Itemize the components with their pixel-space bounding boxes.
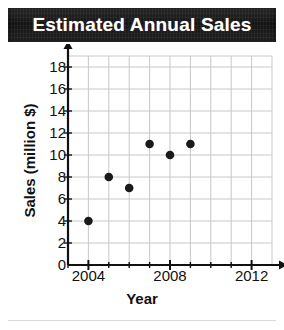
x-axis-title: Year — [0, 290, 284, 307]
x-axis-tick-label: 2008 — [145, 268, 195, 283]
data-points — [84, 140, 195, 226]
data-point — [125, 184, 134, 193]
y-axis-title: Sales (million $) — [21, 66, 38, 256]
y-axis-tick-label: 0 — [40, 257, 66, 272]
y-axis-tick-label: 8 — [40, 169, 66, 184]
y-axis-tick-label: 18 — [40, 59, 66, 74]
chart-title-banner: Estimated Annual Sales — [8, 8, 276, 42]
data-point — [166, 151, 175, 160]
data-point — [84, 217, 93, 226]
data-point — [105, 173, 114, 182]
page-divider — [8, 320, 276, 321]
x-axis-tick-label: 2004 — [63, 268, 113, 283]
data-point — [145, 140, 154, 149]
y-axis-tick-label: 2 — [40, 235, 66, 250]
data-point — [186, 140, 195, 149]
y-axis-tick-label: 6 — [40, 191, 66, 206]
scatter-chart: 024681012141618 200420082012 Sales (mill… — [0, 44, 284, 330]
axis-ticks — [64, 67, 252, 270]
y-axis-tick-label: 10 — [40, 147, 66, 162]
y-axis-tick-labels: 024681012141618 — [38, 44, 66, 330]
y-axis-tick-label: 12 — [40, 125, 66, 140]
x-axis-arrow-icon — [279, 261, 284, 270]
y-axis-tick-label: 16 — [40, 81, 66, 96]
y-axis-tick-label: 4 — [40, 213, 66, 228]
page-title: Estimated Annual Sales — [32, 14, 251, 36]
x-axis-tick-label: 2012 — [227, 268, 277, 283]
y-axis-tick-label: 14 — [40, 103, 66, 118]
gridlines — [68, 56, 272, 265]
